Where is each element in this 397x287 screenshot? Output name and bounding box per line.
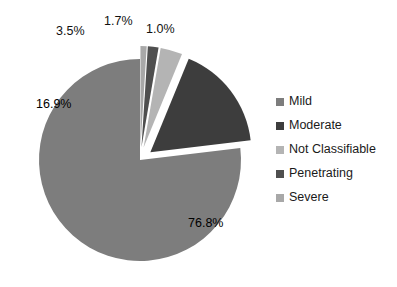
legend-label-mild: Mild	[289, 95, 312, 108]
legend-label-penetrating: Penetrating	[289, 167, 353, 180]
legend-swatch-icon-moderate	[276, 122, 284, 130]
legend-item-penetrating[interactable]: Penetrating	[276, 162, 394, 185]
legend-item-moderate[interactable]: Moderate	[276, 114, 394, 137]
pie-chart-figure: 16.9% 76.8% 3.5% 1.7% 1.0% Mild Moderate…	[0, 0, 397, 287]
data-label-moderate: 16.9%	[36, 97, 71, 111]
legend-label-moderate: Moderate	[289, 119, 342, 132]
data-label-mild: 76.8%	[188, 216, 223, 230]
legend-item-mild[interactable]: Mild	[276, 90, 394, 113]
data-label-severe: 1.0%	[146, 22, 175, 36]
legend-swatch-icon-not-classifiable	[276, 146, 284, 154]
legend-swatch-icon-penetrating	[276, 170, 284, 178]
legend-swatch-icon-mild	[276, 98, 284, 106]
chart-legend: Mild Moderate Not Classifiable Penetrati…	[276, 90, 394, 210]
data-label-penetrating: 1.7%	[104, 14, 133, 28]
data-label-not-classifiable: 3.5%	[56, 24, 85, 38]
legend-label-not-classifiable: Not Classifiable	[289, 143, 376, 156]
legend-item-severe[interactable]: Severe	[276, 186, 394, 209]
legend-swatch-icon-severe	[276, 194, 284, 202]
legend-label-severe: Severe	[289, 191, 329, 204]
legend-item-not-classifiable[interactable]: Not Classifiable	[276, 138, 394, 161]
